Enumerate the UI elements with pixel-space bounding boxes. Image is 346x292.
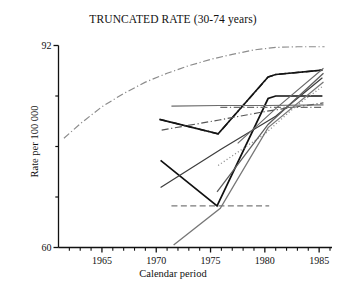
x-tick-label: 1965 (92, 255, 112, 266)
series-line-11 (174, 82, 324, 245)
x-tick-label: 1985 (309, 255, 329, 266)
series-line-4 (161, 96, 323, 206)
data-series-group (64, 47, 325, 245)
y-axis-title: Rate per 100 000 (29, 62, 40, 222)
series-line-7 (171, 105, 323, 106)
chart-figure: TRUNCATED RATE (30-74 years) 60921965197… (0, 0, 346, 292)
x-axis-title: Calendar period (0, 268, 346, 279)
y-tick-label: 92 (42, 40, 52, 51)
x-tick-label: 1975 (201, 255, 221, 266)
series-line-5 (161, 78, 323, 188)
axes (54, 46, 333, 253)
plot-area: 609219651970197519801985 (0, 0, 346, 292)
x-tick-label: 1980 (255, 255, 275, 266)
y-tick-label: 60 (42, 242, 52, 253)
x-tick-label: 1970 (146, 255, 166, 266)
series-line-2 (160, 70, 323, 134)
series-line-3 (160, 70, 323, 134)
